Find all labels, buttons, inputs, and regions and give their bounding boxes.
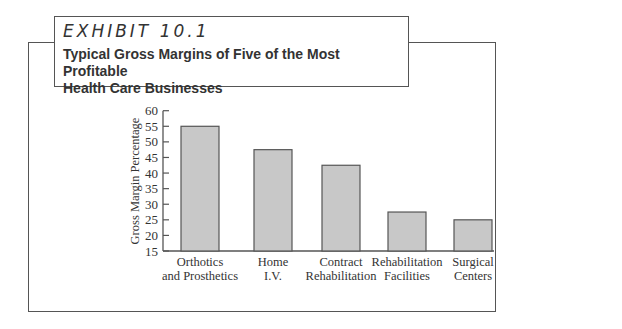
- bar: [322, 165, 360, 251]
- category-label: Contract: [319, 255, 363, 269]
- category-label: Home: [258, 255, 289, 269]
- y-axis-label: Gross Margin Percentage: [128, 117, 142, 244]
- y-tick-label: 60: [145, 103, 158, 118]
- bar: [388, 212, 426, 251]
- y-tick-label: 35: [145, 181, 158, 196]
- bar: [454, 220, 492, 251]
- category-label: Rehabilitation: [306, 269, 378, 283]
- category-label: I.V.: [264, 269, 282, 283]
- y-tick-label: 50: [145, 134, 158, 149]
- category-label: Facilities: [384, 269, 430, 283]
- y-tick-label: 55: [145, 119, 158, 134]
- category-label: Orthotics: [177, 255, 224, 269]
- category-label: Surgical: [452, 255, 494, 269]
- y-tick-label: 40: [145, 166, 158, 181]
- y-tick-label: 25: [145, 212, 158, 227]
- y-tick-label: 15: [145, 244, 158, 259]
- bar-chart: 15202530354045505560Gross Margin Percent…: [0, 0, 622, 329]
- bar: [181, 126, 219, 251]
- category-label: Centers: [454, 269, 492, 283]
- category-label: and Prosthetics: [162, 269, 238, 283]
- y-tick-label: 20: [145, 228, 158, 243]
- category-label: Rehabilitation: [372, 255, 444, 269]
- bar: [254, 150, 292, 251]
- y-tick-label: 45: [145, 150, 158, 165]
- y-tick-label: 30: [145, 197, 158, 212]
